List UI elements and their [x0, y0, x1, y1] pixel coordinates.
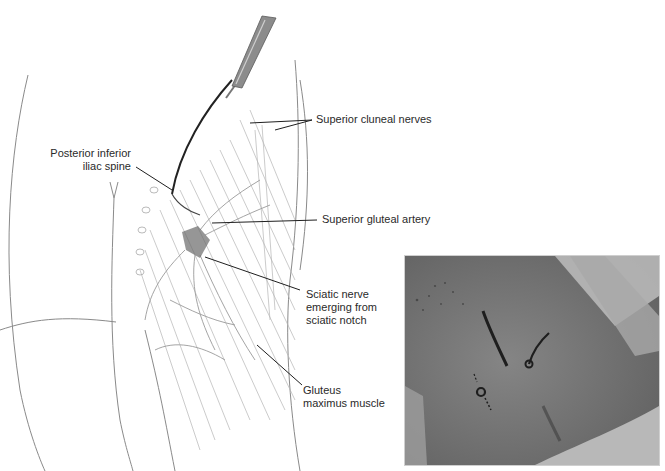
leader-sciatic-nerve [205, 257, 300, 290]
incision-line [172, 80, 232, 194]
intraoperative-photo [404, 255, 660, 466]
photo-drawing [405, 256, 659, 465]
label-sciatic-nerve: Sciatic nerve emerging from sciatic notc… [306, 288, 377, 327]
horizontal-contour [0, 319, 116, 330]
incision-curve [172, 194, 200, 215]
label-posterior-inferior-iliac-spine: Posterior inferior iliac spine [25, 147, 131, 173]
gluteal-cleft-top [110, 182, 118, 198]
gluteal-cleft [112, 198, 133, 471]
leader-superior-gluteal [212, 220, 317, 223]
label-superior-cluneal-nerves: Superior cluneal nerves [316, 113, 432, 126]
scalpel-icon [226, 16, 276, 98]
leader-superior-cluneal [250, 120, 312, 130]
label-line: maximus muscle [303, 397, 385, 410]
lateral-contour [300, 80, 308, 270]
sciatic-notch [182, 226, 210, 258]
vessels-and-nerves [145, 180, 270, 360]
label-line: emerging from [306, 301, 377, 314]
label-line: Sciatic nerve [306, 288, 377, 301]
sacral-foramina [136, 187, 158, 275]
label-line: sciatic notch [306, 314, 377, 327]
leader-pii-spine [136, 167, 172, 190]
left-body-contour [9, 75, 45, 471]
body-outline [0, 60, 308, 471]
label-line: Gluteus [303, 384, 385, 397]
label-gluteus-maximus-muscle: Gluteus maximus muscle [303, 384, 385, 410]
anatomical-figure: Posterior inferior iliac spine Superior … [0, 0, 665, 471]
label-line: Posterior inferior [25, 147, 131, 160]
leader-lines [136, 120, 317, 385]
label-line: iliac spine [25, 160, 131, 173]
buttock-fold [145, 330, 175, 471]
right-body-contour [288, 60, 300, 471]
label-superior-gluteal-artery: Superior gluteal artery [322, 213, 430, 226]
